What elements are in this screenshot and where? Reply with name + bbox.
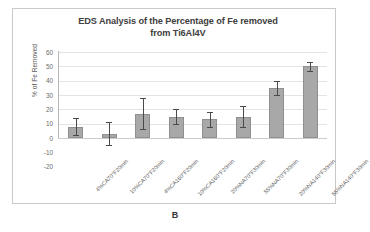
error-bar-cap	[140, 129, 146, 130]
chart-frame: EDS Analysis of the Percentage of Fe rem…	[12, 8, 336, 204]
error-bar-cap	[140, 98, 146, 99]
y-tick-label: 50	[29, 63, 53, 70]
error-bar	[243, 106, 244, 126]
x-tick-label: 10%CA70°F20min	[129, 158, 167, 196]
x-tick-label: 55%NA70°F30min	[263, 158, 301, 196]
gridline	[59, 81, 327, 82]
y-tick-label: 40	[29, 77, 53, 84]
x-tick-label: 55%NA140°F30min	[331, 158, 370, 198]
error-bar-cap	[106, 145, 112, 146]
chart-title: EDS Analysis of the Percentage of Fe rem…	[43, 15, 313, 39]
y-tick-label: 60	[29, 49, 53, 56]
y-axis-title: % of Fe Removed	[31, 26, 38, 116]
error-bar-cap	[73, 135, 79, 136]
error-bar-cap	[207, 112, 213, 113]
y-tick-label: 20	[29, 106, 53, 113]
y-tick-label: 0	[29, 135, 53, 142]
error-bar-cap	[307, 71, 313, 72]
error-bar-cap	[240, 127, 246, 128]
error-bar	[310, 62, 311, 71]
error-bar	[143, 98, 144, 130]
y-tick-label: 10	[29, 120, 53, 127]
gridline	[59, 66, 327, 67]
error-bar	[277, 81, 278, 95]
y-tick-label: -10	[29, 149, 53, 156]
error-bar	[76, 118, 77, 135]
gridline	[59, 124, 327, 125]
error-bar	[176, 109, 177, 123]
plot-area	[59, 52, 327, 138]
error-bar-cap	[73, 118, 79, 119]
gridline	[59, 95, 327, 96]
y-tick-label: 30	[29, 92, 53, 99]
bar	[303, 66, 318, 138]
error-bar-cap	[207, 127, 213, 128]
x-tick-label: 4%CA160°F20min	[162, 158, 200, 196]
gridline	[59, 109, 327, 110]
error-bar-cap	[274, 95, 280, 96]
error-bar	[109, 122, 110, 145]
chart-title-line1: EDS Analysis of the Percentage of Fe rem…	[43, 15, 313, 27]
x-tick-label: 4%CA70°F20min	[94, 158, 129, 193]
y-tick-label: -20	[29, 163, 53, 170]
gridline	[59, 52, 327, 53]
error-bar	[210, 112, 211, 126]
error-bar-cap	[274, 81, 280, 82]
error-bar-cap	[240, 106, 246, 107]
chart-title-line2: from Ti6Al4V	[43, 27, 313, 39]
figure-caption: B	[0, 210, 350, 220]
error-bar-cap	[307, 62, 313, 63]
error-bar-cap	[173, 109, 179, 110]
error-bar-cap	[173, 124, 179, 125]
x-axis-line	[58, 138, 327, 139]
error-bar-cap	[106, 122, 112, 123]
